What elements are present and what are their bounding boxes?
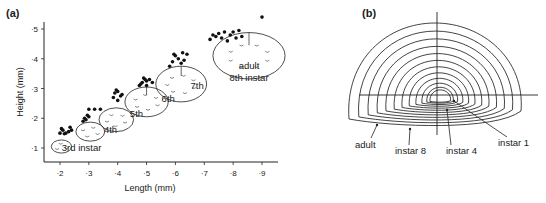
data-point [145, 84, 149, 88]
carapace-mark [265, 60, 269, 61]
instar-label: 6th [162, 93, 175, 104]
data-point [168, 64, 172, 68]
y-tick-label: ·1 [31, 144, 39, 153]
growth-contour [430, 90, 451, 102]
series-3rd-instar [58, 125, 73, 135]
instar-label: 5th [130, 108, 143, 119]
growth-contour [359, 31, 513, 123]
data-point [240, 35, 244, 39]
label-instar-1: instar 1 [498, 137, 529, 148]
data-point [234, 36, 238, 40]
carapace-mark [121, 115, 125, 116]
instar-label: 4th [104, 124, 117, 135]
carapace-mark [265, 51, 269, 52]
carapace-mark [91, 127, 95, 128]
y-tick-label: ·3 [31, 85, 39, 94]
data-point [151, 81, 155, 85]
data-point [220, 36, 224, 40]
carapace-mark [240, 45, 244, 46]
series-5th-instar [112, 88, 124, 102]
data-point [211, 33, 215, 37]
data-point [223, 30, 227, 34]
data-point [231, 30, 235, 34]
leader-instar-8 [409, 129, 410, 145]
label-instar-8: instar 8 [395, 145, 426, 156]
carapace-mark [146, 109, 150, 110]
data-point [139, 82, 143, 86]
marker-instar-1 [453, 100, 455, 102]
series-6th-instar [138, 76, 155, 87]
carapace-mark [96, 133, 100, 134]
instar-label: 3rd instar [62, 142, 102, 153]
x-tick-label: ·4 [114, 169, 122, 178]
carapace-mark [182, 75, 186, 76]
x-tick-label: ·7 [201, 169, 209, 178]
data-point [172, 52, 176, 56]
marker-instar-8 [409, 128, 411, 130]
carapace-mark [55, 148, 59, 149]
data-point [143, 78, 147, 82]
data-point [237, 29, 241, 33]
x-tick-label: ·6 [172, 169, 180, 178]
carapace-mark [255, 45, 259, 46]
data-point [185, 52, 189, 56]
data-point [208, 38, 212, 42]
leader-instar-4 [447, 110, 451, 145]
carapace-mark [165, 84, 169, 85]
y-tick-label: ·4 [31, 55, 39, 64]
instar-label: 7th [190, 80, 203, 91]
series-7th-instar [168, 51, 189, 68]
instar-label: adult [239, 60, 260, 71]
data-point [120, 93, 124, 97]
data-point [112, 96, 116, 100]
label-instar-4: instar 4 [446, 145, 477, 156]
leader-adult [371, 125, 377, 138]
carapace-mark [123, 122, 127, 123]
panel-a-label: (a) [6, 7, 20, 19]
data-point [217, 32, 221, 36]
figure: (a) ·2·3·4·5·6·7·8·9 ·1·2·3·4·5 Length (… [0, 0, 546, 203]
carapace-mark [170, 77, 174, 78]
panel-b-label: (b) [362, 7, 376, 19]
data-point [116, 99, 120, 103]
data-point [114, 88, 118, 92]
x-tick-label: ·5 [143, 169, 151, 178]
data-point [99, 108, 103, 112]
x-ticks: ·2·3·4·5·6·7·8·9 [56, 162, 266, 178]
data-point [60, 127, 64, 131]
data-point [58, 131, 62, 135]
y-ticks: ·1·2·3·4·5 [31, 25, 44, 153]
x-tick-label: ·8 [230, 169, 238, 178]
carapace-mark [105, 121, 109, 122]
marker-instar-4 [446, 109, 448, 111]
data-point [181, 51, 185, 55]
growth-outline-diagram: adult instar 8 instar 4 instar 1 [349, 12, 538, 156]
y-tick-label: ·5 [31, 25, 39, 34]
instar-label: 8th instar [229, 72, 268, 83]
marker-adult [376, 124, 378, 126]
data-point [84, 118, 88, 122]
data-point [226, 39, 230, 43]
annotations: 3rd instar4th5th6th7thadult8th instar [62, 60, 269, 153]
carapace-mark [229, 51, 233, 52]
data-point [148, 78, 152, 82]
carapace-mark [134, 99, 138, 100]
data-point [64, 131, 68, 135]
carapace-mark [156, 105, 160, 106]
y-tick-label: ·2 [31, 114, 39, 123]
y-axis-label: Height (mm) [15, 67, 25, 117]
data-point [177, 57, 181, 61]
x-axis-label: Length (mm) [124, 183, 175, 193]
x-tick-label: ·2 [56, 169, 64, 178]
carapace-mark [85, 136, 89, 137]
data-point [87, 108, 91, 112]
data-point [179, 61, 183, 65]
data-point [260, 15, 264, 19]
data-point [182, 58, 186, 62]
data-point [87, 115, 91, 119]
data-point [93, 108, 97, 112]
series-adult-8th-instar [208, 15, 264, 42]
data-point [171, 60, 175, 64]
carapace-mark [229, 60, 233, 61]
label-adult: adult [355, 139, 376, 150]
